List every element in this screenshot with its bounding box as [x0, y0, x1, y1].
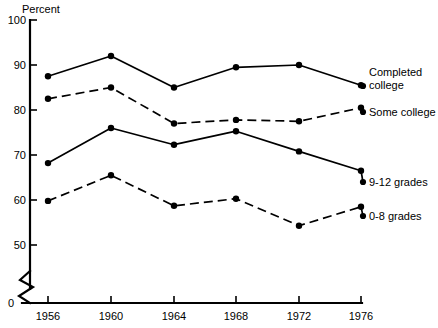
x-tick-label-1972: 1972	[287, 310, 311, 322]
data-point	[233, 117, 239, 123]
data-point	[171, 84, 177, 90]
data-point	[171, 120, 177, 126]
series-line-0-8-grades	[48, 175, 361, 225]
series-line-completed-college	[48, 56, 361, 88]
data-point	[233, 64, 239, 70]
series-line-some-college	[48, 88, 361, 124]
y-tick-label-0: 0	[8, 297, 14, 309]
legend-marker-completed-college	[360, 83, 366, 89]
x-tick-label-1976: 1976	[349, 310, 373, 322]
data-point	[45, 160, 51, 166]
y-tick-label-70: 70	[14, 149, 26, 161]
legend-label-completed-college-line2: college	[369, 79, 404, 91]
data-point	[233, 196, 239, 202]
series-group	[45, 53, 364, 229]
data-point	[45, 198, 51, 204]
data-point	[108, 172, 114, 178]
x-tick-label-1960: 1960	[99, 310, 123, 322]
legend-label-9-12-grades: 9-12 grades	[369, 176, 428, 188]
series-line-9-12-grades	[48, 128, 361, 171]
data-point	[108, 84, 114, 90]
data-point	[108, 125, 114, 131]
data-point	[45, 96, 51, 102]
y-tick-label-90: 90	[14, 59, 26, 71]
chart-container: Percent 100 90 80 70 60 50 0 1956 1960 1…	[0, 0, 438, 328]
y-tick-label-60: 60	[14, 194, 26, 206]
data-point	[296, 148, 302, 154]
data-point	[296, 223, 302, 229]
legend-marker-some-college	[360, 109, 366, 115]
y-tick-label-50: 50	[14, 239, 26, 251]
data-point	[171, 142, 177, 148]
y-axis-title: Percent	[22, 3, 60, 15]
legend-label-completed-college-line1: Completed	[369, 66, 422, 78]
data-point	[171, 203, 177, 209]
line-chart-svg: Percent 100 90 80 70 60 50 0 1956 1960 1…	[0, 0, 438, 328]
data-point	[45, 73, 51, 79]
data-point	[296, 62, 302, 68]
data-point	[296, 118, 302, 124]
legend-label-0-8-grades: 0-8 grades	[369, 210, 422, 222]
legend-marker-9-12-grades	[360, 179, 366, 185]
y-tick-label-100: 100	[8, 14, 26, 26]
data-point	[233, 128, 239, 134]
x-tick-label-1956: 1956	[36, 310, 60, 322]
legend-label-some-college: Some college	[369, 106, 436, 118]
legend-marker-0-8-grades	[360, 213, 366, 219]
x-tick-label-1968: 1968	[224, 310, 248, 322]
y-tick-label-80: 80	[14, 104, 26, 116]
x-tick-label-1964: 1964	[162, 310, 186, 322]
data-point	[108, 53, 114, 59]
